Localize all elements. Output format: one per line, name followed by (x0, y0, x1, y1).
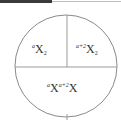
outer-circle (15, 15, 117, 117)
cell-top-left-base: X (35, 42, 44, 56)
cell-bottom-base: X (50, 81, 59, 95)
cell-top-left: aX2 (32, 43, 47, 55)
cell-top-right: a+2X2 (76, 43, 98, 55)
cell-top-left-sub: 2 (44, 50, 47, 56)
cell-bottom-base2: X (69, 81, 78, 95)
cell-top-right-prefix: a+2 (76, 43, 86, 49)
cell-top-right-sub: 2 (95, 50, 98, 56)
cell-top-right-base: X (86, 42, 95, 56)
circle-diagram (0, 0, 121, 125)
cell-bottom: aXa+2X (47, 82, 77, 94)
cell-bottom-mid-sup: a+2 (59, 82, 69, 88)
